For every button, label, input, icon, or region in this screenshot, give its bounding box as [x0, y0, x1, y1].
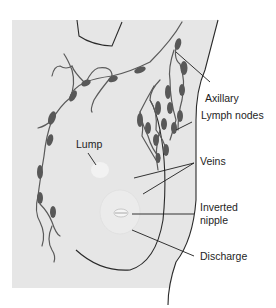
label-lymph-nodes: Lymph nodes [201, 109, 264, 121]
label-nipple: nipple [200, 214, 228, 226]
label-discharge: Discharge [200, 250, 247, 262]
label-lump: Lump [76, 138, 102, 150]
label-axillary: Axillary [205, 92, 239, 104]
label-veins: Veins [200, 155, 226, 167]
lump [91, 162, 109, 178]
label-inverted: Inverted [200, 201, 238, 213]
skin-region [12, 20, 218, 288]
breast-diagram: Axillary Lymph nodes Lump Veins Inverted… [0, 0, 276, 308]
